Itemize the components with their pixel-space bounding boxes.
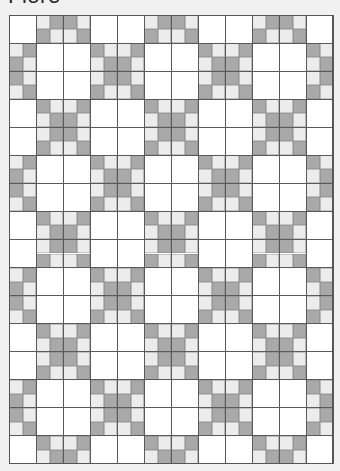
dark-patch <box>293 29 307 43</box>
light-patch <box>252 352 266 366</box>
light-patch <box>158 141 172 155</box>
block-grid-line <box>9 267 333 268</box>
dark-patch <box>212 394 226 408</box>
dark-patch <box>117 282 131 296</box>
light-patch <box>104 85 118 99</box>
block-grid-line <box>9 71 333 72</box>
dark-patch <box>144 211 158 225</box>
light-patch <box>252 239 266 253</box>
light-patch <box>198 71 212 85</box>
dark-patch <box>36 99 50 113</box>
light-patch <box>293 225 307 239</box>
light-patch <box>9 268 23 282</box>
light-patch <box>252 15 266 29</box>
dark-patch <box>279 239 293 253</box>
dark-patch <box>252 141 266 155</box>
dark-patch <box>198 380 212 394</box>
light-patch <box>90 408 104 422</box>
dark-patch <box>225 71 239 85</box>
dark-patch <box>225 394 239 408</box>
dark-patch <box>63 225 77 239</box>
light-patch <box>320 197 334 211</box>
light-patch <box>36 127 50 141</box>
light-patch <box>23 71 37 85</box>
dark-patch <box>104 57 118 71</box>
dark-patch <box>36 324 50 338</box>
light-patch <box>320 43 334 57</box>
light-patch <box>198 183 212 197</box>
dark-patch <box>131 197 145 211</box>
dark-patch <box>9 183 23 197</box>
light-patch <box>171 99 185 113</box>
light-patch <box>266 366 280 380</box>
dark-patch <box>266 352 280 366</box>
dark-patch <box>9 394 23 408</box>
light-patch <box>9 197 23 211</box>
dark-patch <box>50 352 64 366</box>
dark-patch <box>117 183 131 197</box>
dark-patch <box>90 380 104 394</box>
dark-patch <box>158 338 172 352</box>
dark-patch <box>171 239 185 253</box>
dark-patch <box>266 113 280 127</box>
dark-patch <box>293 366 307 380</box>
dark-patch <box>266 450 280 464</box>
light-patch <box>293 15 307 29</box>
block-grid-line <box>9 407 333 408</box>
light-patch <box>104 155 118 169</box>
light-patch <box>266 254 280 268</box>
dark-patch <box>77 99 91 113</box>
dark-patch <box>144 324 158 338</box>
light-patch <box>117 197 131 211</box>
dark-patch <box>198 310 212 324</box>
dark-patch <box>320 394 334 408</box>
light-patch <box>144 352 158 366</box>
dark-patch <box>117 408 131 422</box>
light-patch <box>279 211 293 225</box>
light-patch <box>252 127 266 141</box>
light-patch <box>306 57 320 71</box>
block-grid-line <box>9 323 333 324</box>
light-patch <box>185 352 199 366</box>
dark-patch <box>36 254 50 268</box>
dark-patch <box>239 380 253 394</box>
light-patch <box>266 99 280 113</box>
light-patch <box>212 310 226 324</box>
light-patch <box>293 127 307 141</box>
light-patch <box>185 338 199 352</box>
dark-patch <box>63 352 77 366</box>
dark-patch <box>171 450 185 464</box>
dark-patch <box>36 141 50 155</box>
dark-patch <box>293 254 307 268</box>
light-patch <box>63 324 77 338</box>
dark-patch <box>9 169 23 183</box>
light-patch <box>212 380 226 394</box>
dark-patch <box>63 113 77 127</box>
light-patch <box>63 99 77 113</box>
block-grid-line <box>9 127 333 128</box>
dark-patch <box>50 127 64 141</box>
dark-patch <box>77 141 91 155</box>
dark-patch <box>77 436 91 450</box>
dark-patch <box>77 366 91 380</box>
light-patch <box>144 127 158 141</box>
dark-patch <box>320 282 334 296</box>
dark-patch <box>90 43 104 57</box>
light-patch <box>212 268 226 282</box>
light-patch <box>117 155 131 169</box>
light-patch <box>104 268 118 282</box>
dark-patch <box>185 141 199 155</box>
light-patch <box>9 310 23 324</box>
dark-patch <box>131 43 145 57</box>
dark-patch <box>252 29 266 43</box>
dark-patch <box>306 85 320 99</box>
dark-patch <box>158 352 172 366</box>
dark-patch <box>279 352 293 366</box>
light-patch <box>131 408 145 422</box>
dark-patch <box>104 394 118 408</box>
dark-patch <box>239 422 253 436</box>
light-patch <box>36 113 50 127</box>
dark-patch <box>225 408 239 422</box>
light-patch <box>293 113 307 127</box>
dark-patch <box>171 15 185 29</box>
